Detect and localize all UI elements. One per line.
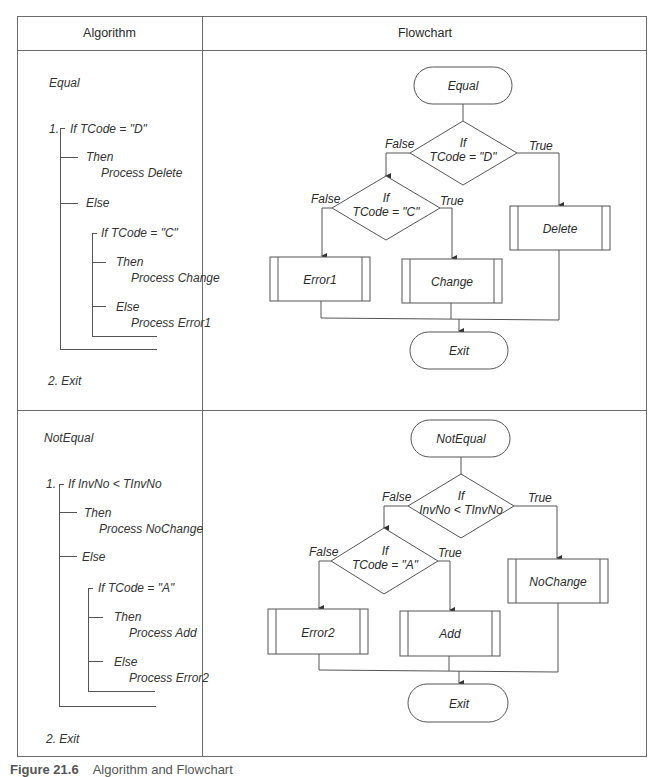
decision-1-line-2: TCode = "D"	[430, 150, 498, 164]
process-nochange-label: NoChange	[529, 575, 587, 589]
decision-2-true-label: True	[438, 546, 462, 560]
process-delete-label: Delete	[543, 222, 578, 236]
start-label: Equal	[448, 79, 479, 93]
decision-1-false-label: False	[382, 490, 412, 504]
caption-label: Figure 21.6	[10, 762, 79, 777]
process-add-label: Add	[438, 627, 461, 641]
decision-1-true-label: True	[528, 491, 552, 505]
decision-2-line-2: TCode = "C"	[353, 205, 421, 219]
decision-2-true-label: True	[440, 194, 464, 208]
process-change-label: Change	[431, 275, 473, 289]
decision-2-false-label: False	[311, 192, 341, 206]
decision-2-false-label: False	[309, 545, 339, 559]
process-error2-label: Error2	[301, 626, 335, 640]
decision-1-true-label: True	[529, 139, 553, 153]
figure-caption: Figure 21.6Algorithm and Flowchart	[10, 762, 233, 777]
decision-1-false-label: False	[385, 137, 415, 151]
decision-1-line-2: InvNo < TInvNo	[419, 503, 503, 517]
flowchart-equal	[270, 67, 610, 369]
end-label: Exit	[449, 344, 470, 358]
flowchart-notequal	[268, 420, 608, 722]
process-error1-label: Error1	[303, 273, 336, 287]
start-label: NotEqual	[436, 432, 486, 446]
decision-2-line-2: TCode = "A"	[352, 558, 419, 572]
caption-text: Algorithm and Flowchart	[93, 762, 233, 777]
end-label: Exit	[449, 697, 470, 711]
